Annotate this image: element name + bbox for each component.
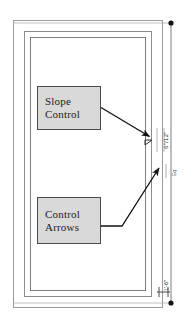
inner-roof-edge	[30, 37, 146, 291]
eave-note-text: Eq	[171, 170, 177, 176]
callout-slope-control-line1: Slope	[45, 95, 100, 108]
callout-control-arrows[interactable]: Control Arrows	[37, 197, 101, 244]
slope-note-text: 6"/12"	[163, 131, 169, 149]
callout-slope-control[interactable]: Slope Control	[37, 86, 101, 130]
callout-control-arrows-line1: Control	[45, 208, 100, 221]
callout-control-arrows-line2: Arrows	[45, 221, 100, 234]
overhang-note-text: 1'-6"	[163, 280, 169, 291]
drawing-canvas: Slope Control Control Arrows 6"/12" Eq 1…	[0, 0, 188, 326]
callout-slope-control-line2: Control	[45, 108, 100, 121]
